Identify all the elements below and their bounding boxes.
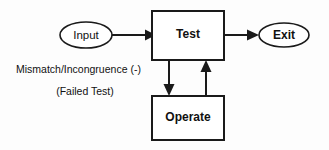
node-test[interactable]: Test <box>152 11 224 60</box>
edge-test-to-operate-arrowhead <box>164 84 175 96</box>
mismatch-caption: Mismatch/Incongruence (-) <box>16 63 141 75</box>
edge-test-to-exit <box>224 30 259 41</box>
edge-operate-to-test <box>201 60 212 96</box>
edge-test-to-exit-arrowhead <box>247 30 259 41</box>
edge-input-to-test <box>112 30 156 41</box>
edge-test-to-operate <box>164 60 175 96</box>
failed-test-caption: (Failed Test) <box>56 85 114 97</box>
node-input-label: Input <box>73 29 99 41</box>
flowchart-svg: Input Test Exit Operate Mismatch/Incongr… <box>0 0 329 150</box>
node-operate[interactable]: Operate <box>152 96 224 140</box>
node-test-label: Test <box>176 27 200 41</box>
node-input[interactable]: Input <box>60 22 112 48</box>
node-operate-label: Operate <box>165 110 211 124</box>
node-exit-label: Exit <box>273 28 295 42</box>
diagram-canvas: Input Test Exit Operate Mismatch/Incongr… <box>0 0 329 150</box>
node-exit[interactable]: Exit <box>259 23 309 47</box>
edge-operate-to-test-arrowhead <box>201 60 212 72</box>
